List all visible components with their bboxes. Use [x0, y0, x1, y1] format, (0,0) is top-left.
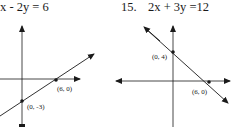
graph-left	[0, 26, 94, 127]
graph-right	[116, 26, 230, 127]
point-label-right-0-4: (0, 4)	[152, 53, 167, 61]
point-label-right-6-0: (6, 0)	[192, 88, 207, 96]
point-label-left-6-0: (6, 0)	[57, 85, 72, 93]
point-label-left-0-neg3: (0, -3)	[27, 103, 45, 111]
